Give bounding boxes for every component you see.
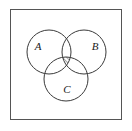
set-label-a: A — [34, 40, 42, 52]
venn-diagram-figure: A B C — [0, 0, 132, 131]
set-label-b: B — [92, 40, 99, 52]
venn-diagram-canvas: A B C — [0, 0, 132, 131]
set-label-c: C — [63, 83, 71, 95]
